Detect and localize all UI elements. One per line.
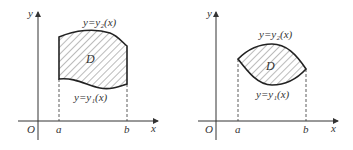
right-figure: y x O a b D y=y₂(x) y=y₁(x) [198, 7, 338, 140]
a-label: a [235, 123, 241, 135]
region-label: D [265, 59, 275, 73]
lower-curve-label: y=y₁(x) [255, 88, 290, 101]
b-label: b [124, 123, 130, 135]
origin-label: O [27, 123, 35, 135]
y-axis-label: y [27, 7, 33, 19]
left-figure: y x O a b D y=y₂(x) y=y₁(x) [18, 7, 158, 140]
x-axis-label: x [330, 122, 336, 134]
upper-curve-label: y=y₂(x) [82, 16, 117, 29]
upper-curve-label: y=y₂(x) [258, 28, 293, 41]
a-label: a [56, 123, 62, 135]
origin-label: O [205, 123, 213, 135]
y-axis-label: y [206, 7, 212, 19]
region-label: D [85, 52, 95, 66]
b-label: b [303, 123, 309, 135]
x-axis-label: x [150, 122, 156, 134]
diagram-canvas: y x O a b D y=y₂(x) y=y₁(x) y x O a b D … [0, 0, 353, 150]
lower-curve-label: y=y₁(x) [73, 91, 108, 104]
